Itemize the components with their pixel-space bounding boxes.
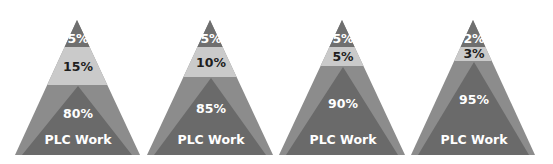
top-percentage-label: 5% — [200, 31, 222, 46]
main-percentage-label: 80% — [63, 106, 93, 121]
top-percentage-label: 2% — [463, 31, 485, 46]
plc-work-label: PLC Work — [309, 132, 377, 147]
top-percentage-label: 5% — [332, 31, 354, 46]
plc-work-label: PLC Work — [177, 132, 245, 147]
main-percentage-label: 90% — [328, 96, 358, 111]
main-percentage-label: 95% — [459, 92, 489, 107]
pyramid-2: 5%10%85%PLC Work — [147, 20, 273, 155]
mid-percentage-label: 3% — [463, 46, 485, 61]
plc-work-label: PLC Work — [440, 132, 508, 147]
pyramid-diagram: 5%15%80%PLC Work5%10%85%PLC Work5%5%90%P… — [0, 0, 553, 164]
pyramid-4: 2%3%95%PLC Work — [411, 20, 535, 155]
main-percentage-label: 85% — [196, 101, 226, 116]
mid-percentage-label: 10% — [196, 55, 226, 70]
pyramid-3: 5%5%90%PLC Work — [279, 20, 405, 155]
mid-percentage-label: 15% — [63, 59, 93, 74]
top-percentage-label: 5% — [67, 31, 89, 46]
plc-work-label: PLC Work — [44, 132, 112, 147]
pyramid-1: 5%15%80%PLC Work — [15, 20, 140, 155]
mid-percentage-label: 5% — [332, 49, 354, 64]
